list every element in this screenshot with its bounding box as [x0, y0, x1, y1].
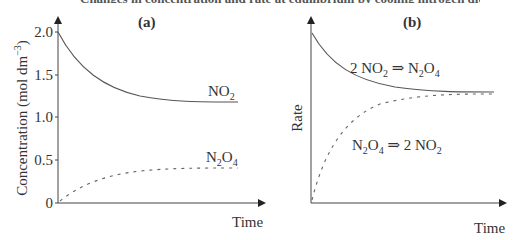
n2o4-label: N2O4 [206, 149, 238, 168]
chart-a: 2.0 1.5 1.0 0.5 0 Concentration (mol dm−… [12, 14, 263, 230]
x-axis-label-b: Time [474, 220, 505, 236]
panel-label-a: (a) [138, 14, 156, 31]
panel-label-b: (b) [403, 14, 421, 31]
forward-reaction-label: 2 NO2 ⇒ N2O4 [350, 60, 440, 79]
n2o4-concentration-curve [60, 168, 238, 201]
tick-label: 2.0 [34, 24, 53, 40]
tick-label: 1.5 [34, 67, 53, 83]
reverse-reaction-label: N2O4 ⇒ 2 NO2 [352, 137, 442, 156]
y-axis-label-a: Concentration (mol dm−3) [12, 40, 31, 196]
no2-label: NO2 [208, 83, 235, 102]
x-axis-label-a: Time [232, 214, 263, 230]
figure: 2.0 1.5 1.0 0.5 0 Concentration (mol dm−… [0, 0, 513, 240]
chart-b: Rate (b) Time 2 NO2 ⇒ N2O4 N2O4 ⇒ 2 NO2 [289, 14, 505, 236]
y-axis-label-b: Rate [289, 104, 305, 132]
tick-label: 0.5 [34, 152, 53, 168]
tick-label: 1.0 [34, 109, 53, 125]
tick-label: 0 [46, 195, 54, 211]
